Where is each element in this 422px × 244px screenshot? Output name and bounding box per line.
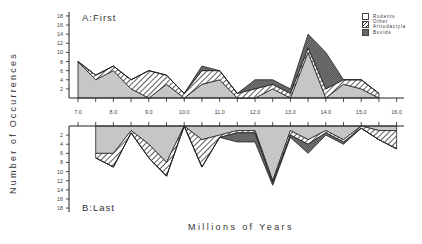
svg-text:16: 16 xyxy=(57,196,63,202)
svg-text:9.0: 9.0 xyxy=(145,109,153,115)
y-axis-label: Number of Occurrences xyxy=(6,40,20,210)
panel-b-last xyxy=(96,126,397,185)
crosshatch-swatch-icon xyxy=(362,29,369,36)
svg-text:14.0: 14.0 xyxy=(320,109,331,115)
axes: 22446688101012121414161618187.08.09.010.… xyxy=(57,12,404,212)
svg-text:12: 12 xyxy=(57,40,63,46)
svg-text:8: 8 xyxy=(60,159,63,165)
svg-text:14: 14 xyxy=(57,187,63,193)
svg-text:12.0: 12.0 xyxy=(250,109,261,115)
legend-item-bovids: Bovids xyxy=(362,28,422,36)
svg-text:15.0: 15.0 xyxy=(356,109,367,115)
svg-text:16.0: 16.0 xyxy=(391,109,402,115)
svg-text:10.0: 10.0 xyxy=(179,109,190,115)
svg-text:2: 2 xyxy=(60,86,63,92)
svg-text:14: 14 xyxy=(57,31,63,37)
svg-text:13.0: 13.0 xyxy=(285,109,296,115)
svg-text:11.0: 11.0 xyxy=(214,109,224,115)
panel-a-title: A:First xyxy=(82,12,116,23)
svg-text:6: 6 xyxy=(60,150,63,156)
svg-text:4: 4 xyxy=(60,141,63,147)
svg-text:10: 10 xyxy=(57,49,63,55)
hatch-swatch-icon xyxy=(362,21,369,28)
legend-item-other-artiodactyla: Other Artiodactyla xyxy=(362,20,422,28)
svg-text:8.0: 8.0 xyxy=(110,109,118,115)
panel-b-title: B:Last xyxy=(82,202,115,213)
panel-a-first xyxy=(78,34,379,98)
svg-text:2: 2 xyxy=(60,132,63,138)
plot-area: 22446688101012121414161618187.08.09.010.… xyxy=(0,0,422,244)
svg-text:4: 4 xyxy=(60,77,63,83)
svg-text:18: 18 xyxy=(57,13,63,19)
svg-text:8: 8 xyxy=(60,59,63,65)
svg-text:16: 16 xyxy=(57,22,63,28)
svg-text:6: 6 xyxy=(60,68,63,74)
chart-figure: 22446688101012121414161618187.08.09.010.… xyxy=(0,0,422,244)
rodents-swatch-icon xyxy=(362,13,369,20)
x-axis-label: Millions of Years xyxy=(60,222,422,232)
svg-text:10: 10 xyxy=(57,169,63,175)
svg-text:12: 12 xyxy=(57,178,63,184)
svg-text:7.0: 7.0 xyxy=(74,109,82,115)
legend: Rodents Other Artiodactyla Bovids xyxy=(362,12,422,36)
svg-text:18: 18 xyxy=(57,205,63,211)
